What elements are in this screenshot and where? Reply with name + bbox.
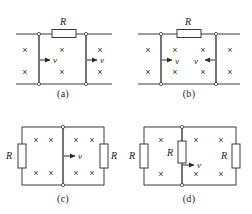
resistor-right bbox=[232, 144, 240, 168]
field-mark: × bbox=[193, 169, 198, 179]
field-mark: × bbox=[218, 135, 223, 145]
resistor-left bbox=[140, 144, 148, 168]
panel-d: R R R × × × × × × v (d) bbox=[126, 107, 252, 214]
panel-caption-b: (b) bbox=[126, 88, 252, 99]
resistor-label-left-R: R bbox=[5, 150, 12, 161]
field-mark: × bbox=[33, 168, 38, 178]
resistor-label-right-R: R bbox=[110, 150, 117, 161]
resistor-left bbox=[18, 144, 26, 168]
field-mark: × bbox=[200, 67, 205, 77]
field-mark: × bbox=[97, 45, 102, 55]
figure-root: R × × × × × × v v (a) bbox=[0, 0, 252, 214]
resistor-label-R: R bbox=[184, 16, 191, 27]
field-mark: × bbox=[73, 168, 78, 178]
node-dot bbox=[37, 32, 40, 35]
field-mark: × bbox=[48, 168, 53, 178]
field-mark: × bbox=[59, 45, 64, 55]
resistor-label-right-R: R bbox=[220, 150, 227, 161]
field-mark: × bbox=[193, 135, 198, 145]
node-dot bbox=[180, 125, 183, 128]
resistor-right bbox=[100, 144, 108, 168]
velocity-label: v bbox=[197, 160, 201, 170]
resistor-middle bbox=[178, 141, 186, 163]
node-dot bbox=[84, 82, 87, 85]
node-dot bbox=[159, 32, 162, 35]
panel-b: R × × × × × × × × v v (b) bbox=[126, 0, 252, 107]
node-dot bbox=[84, 32, 87, 35]
panel-c: R R × × × × × × × × v (c) bbox=[0, 107, 126, 214]
field-mark: × bbox=[33, 135, 38, 145]
field-mark: × bbox=[218, 169, 223, 179]
resistor-label-left-R: R bbox=[128, 150, 135, 161]
field-mark: × bbox=[73, 135, 78, 145]
panel-caption-d: (d) bbox=[126, 193, 252, 204]
resistor-label-middle-R: R bbox=[166, 147, 173, 158]
resistor-label-R: R bbox=[59, 16, 66, 27]
field-mark: × bbox=[200, 45, 205, 55]
velocity-label-right: v bbox=[100, 55, 104, 65]
field-mark: × bbox=[89, 168, 94, 178]
node-dot bbox=[214, 32, 217, 35]
resistor-top bbox=[177, 30, 201, 38]
field-mark: × bbox=[22, 45, 27, 55]
field-mark: × bbox=[48, 135, 53, 145]
panel-a: R × × × × × × v v (a) bbox=[0, 0, 126, 107]
field-mark: × bbox=[89, 135, 94, 145]
panel-caption-a: (a) bbox=[0, 88, 126, 99]
field-mark: × bbox=[158, 169, 163, 179]
field-mark: × bbox=[227, 45, 232, 55]
field-mark: × bbox=[22, 67, 27, 77]
node-dot bbox=[37, 82, 40, 85]
resistor-top bbox=[52, 30, 76, 38]
field-mark: × bbox=[145, 67, 150, 77]
node-dot bbox=[61, 125, 64, 128]
field-mark: × bbox=[158, 135, 163, 145]
velocity-label-left: v bbox=[175, 56, 179, 66]
velocity-label: v bbox=[78, 151, 82, 161]
field-mark: × bbox=[172, 45, 177, 55]
velocity-label-left: v bbox=[53, 55, 57, 65]
field-mark: × bbox=[172, 67, 177, 77]
panel-caption-c: (c) bbox=[0, 193, 126, 204]
velocity-label-right: v bbox=[194, 56, 198, 66]
node-dot bbox=[61, 183, 64, 186]
node-dot bbox=[180, 183, 183, 186]
node-dot bbox=[159, 82, 162, 85]
field-mark: × bbox=[59, 67, 64, 77]
field-mark: × bbox=[227, 67, 232, 77]
field-mark: × bbox=[97, 67, 102, 77]
field-mark: × bbox=[145, 45, 150, 55]
node-dot bbox=[214, 82, 217, 85]
